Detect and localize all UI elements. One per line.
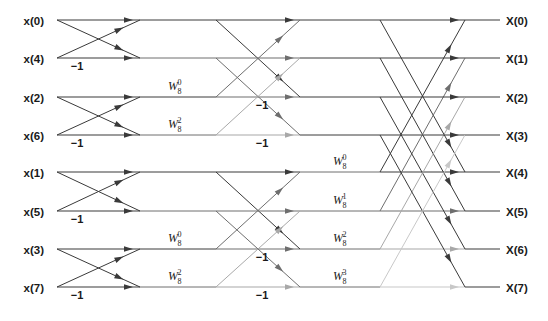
fft-butterfly-diagram: x(0)x(4)x(2)x(6)x(1)x(5)x(3)x(7)−1−1−1−1… xyxy=(0,0,548,321)
input-label-x7: x(7) xyxy=(24,282,45,294)
stage2-minus-one-label: −1 xyxy=(256,99,269,111)
output-label-X0: X(0) xyxy=(506,15,528,27)
fft-signal-flow-graph: x(0)x(4)x(2)x(6)x(1)x(5)x(3)x(7)−1−1−1−1… xyxy=(0,0,548,321)
stage3-twiddle-W8-3-exponent: 3 xyxy=(343,268,347,277)
output-label-X1: X(1) xyxy=(506,53,528,65)
stage1-minus-one-label: −1 xyxy=(71,137,84,149)
stage2-twiddle-W8-2-subscript: 8 xyxy=(178,125,182,134)
stage2-twiddle-W8-2-exponent: 2 xyxy=(178,116,182,125)
stage3-twiddle-W8-0-exponent: 0 xyxy=(343,153,347,162)
stage2-twiddle-W8-0-subscript: 8 xyxy=(178,239,182,248)
stage3-twiddle-W8-3-subscript: 8 xyxy=(343,277,347,286)
input-label-x4: x(4) xyxy=(24,53,45,65)
diagram-background xyxy=(0,0,548,321)
stage1-minus-one-label: −1 xyxy=(71,289,84,301)
input-label-x0: x(0) xyxy=(24,15,45,27)
stage2-twiddle-W8-2-exponent: 2 xyxy=(178,268,182,277)
stage1-minus-one-label: −1 xyxy=(71,60,84,72)
stage2-minus-one-label: −1 xyxy=(256,137,269,149)
input-label-x3: x(3) xyxy=(24,244,45,256)
stage3-twiddle-W8-0-subscript: 8 xyxy=(343,162,347,171)
stage3-twiddle-W8-2-subscript: 8 xyxy=(343,239,347,248)
stage1-minus-one-label: −1 xyxy=(71,213,84,225)
stage3-twiddle-W8-2-exponent: 2 xyxy=(343,230,347,239)
output-label-X3: X(3) xyxy=(506,130,528,142)
stage2-minus-one-label: −1 xyxy=(256,251,269,263)
input-label-x2: x(2) xyxy=(24,92,45,104)
stage2-twiddle-W8-0-exponent: 0 xyxy=(178,78,182,87)
input-label-x1: x(1) xyxy=(24,167,45,179)
stage2-minus-one-label: −1 xyxy=(256,289,269,301)
output-label-X5: X(5) xyxy=(506,206,528,218)
input-label-x5: x(5) xyxy=(24,206,45,218)
stage3-twiddle-W8-1-subscript: 8 xyxy=(343,201,347,210)
stage2-twiddle-W8-0-subscript: 8 xyxy=(178,87,182,96)
output-label-X6: X(6) xyxy=(506,244,528,256)
output-label-X2: X(2) xyxy=(506,92,528,104)
stage2-twiddle-W8-2-subscript: 8 xyxy=(178,277,182,286)
input-label-x6: x(6) xyxy=(24,130,45,142)
stage3-twiddle-W8-1-exponent: 1 xyxy=(343,192,347,201)
stage2-twiddle-W8-0-exponent: 0 xyxy=(178,230,182,239)
output-label-X4: X(4) xyxy=(506,167,528,179)
output-label-X7: X(7) xyxy=(506,282,528,294)
